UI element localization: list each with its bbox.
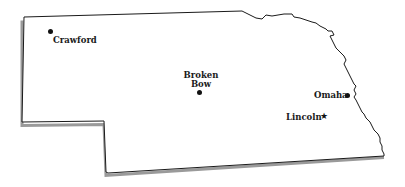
city-marker-broken-bow: [197, 90, 202, 95]
capital-star-icon: ★: [320, 112, 328, 121]
city-label-lincoln: Lincoln: [286, 113, 322, 122]
city-label-crawford: Crawford: [53, 36, 97, 45]
city-marker-crawford: [48, 29, 53, 34]
city-marker-omaha: [345, 93, 350, 98]
city-label-broken-bow-line2: Bow: [191, 80, 211, 89]
city-label-omaha: Omaha: [314, 91, 348, 100]
